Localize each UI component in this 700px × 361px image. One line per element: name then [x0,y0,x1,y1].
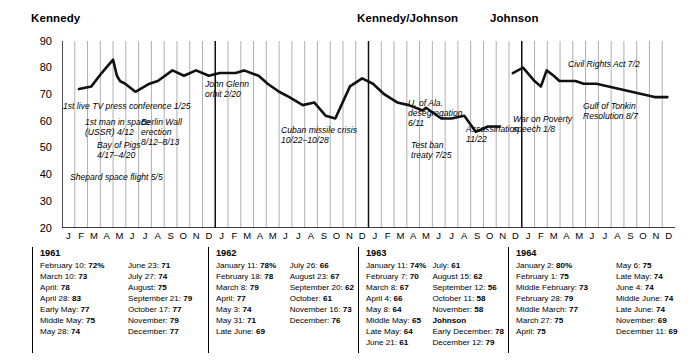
table-row: October 11: 58 [432,294,504,305]
row-label: May 31: [216,316,247,325]
row-label: January 11: [366,261,410,270]
row-value: 66 [393,294,402,303]
row-value: 56 [488,283,497,292]
row-label: April: [40,283,61,292]
row-value: 71 [161,261,170,270]
row-label: Early December: [432,327,495,336]
table-row: Late May: 74 [616,272,678,283]
row-value: 79 [486,338,495,347]
table-row: October 17: 77 [128,305,192,316]
row-value: 71 [247,316,256,325]
table-row: December 12: 79 [432,338,504,349]
row-value: 77 [569,305,578,314]
row-value: 74 [656,305,665,314]
row-label: May 28: [40,327,71,336]
row-label: May 6: [616,261,643,270]
row-value: 69 [256,327,265,336]
table-row: February 18: 78 [216,272,290,283]
row-value: 74 [654,272,663,281]
row-label: November: [616,316,658,325]
table-row: May 28: 74 [40,327,128,338]
row-value: 75 [537,327,546,336]
row-label: December: [128,327,170,336]
row-value: 58 [476,294,485,303]
table-row: December: 76 [290,316,354,327]
annotation-gulf-of-tonkin: Gulf of Tonkin Resolution 8/7 [583,101,638,121]
table-row: September 20: 62 [290,283,354,294]
y-tick-80: 80 [26,62,52,73]
row-value: 75 [560,272,569,281]
row-label: November 16: [290,305,343,314]
row-value: 78 [495,327,504,336]
row-label: September 20: [290,283,345,292]
row-value: 62 [345,283,354,292]
row-value: 74 [71,327,80,336]
table-row: Middle May: 75 [40,316,128,327]
table-row: September 21: 79 [128,294,192,305]
table-column: May 6: 75Late May: 74June 4: 74Middle Ju… [616,261,678,338]
table-row: Late June: 69 [216,327,290,338]
row-value: 79 [564,294,573,303]
annotation-civil-rights-act: Civil Rights Act 7/2 [568,59,640,69]
row-value: 65 [412,316,421,325]
row-value: 79 [183,294,192,303]
row-value: 66 [320,261,329,270]
row-label: April: [216,294,237,303]
table-row: November: 79 [128,316,192,327]
row-value: 77 [237,294,246,303]
table-row: March 8: 79 [216,283,290,294]
row-label: December 12: [432,338,485,347]
row-label: June 21: [366,338,399,347]
row-label: November: [128,316,170,325]
row-value: 73 [78,272,87,281]
table-row: July 27: 74 [128,272,192,283]
row-value: 62 [473,272,482,281]
table-row: Early December: 78 [432,327,504,338]
row-value: 72% [88,261,104,270]
row-label: March 10: [40,272,78,281]
table-row: January 11: 74% [366,261,432,272]
row-value: 77 [173,305,182,314]
row-value: 78 [264,272,273,281]
table-row: October: 61 [290,294,354,305]
y-tick-60: 60 [26,116,52,127]
row-label: March 8: [366,283,400,292]
row-value: 61 [399,338,408,347]
table-column: June 23: 71July 27: 74August: 75Septembe… [128,261,192,338]
table-row: January 2: 80% [516,261,616,272]
row-value: 74 [664,294,673,303]
table-row: May 31: 71 [216,316,290,327]
table-row: June 4: 74 [616,283,678,294]
table-year: 1963 [366,247,504,259]
table-row: Middle February: 73 [516,283,616,294]
row-value: 69 [658,316,667,325]
row-value: 79 [250,283,259,292]
y-tick-70: 70 [26,89,52,100]
row-label: October: [290,294,323,303]
row-label: Late June: [616,305,656,314]
section-title-kennedy: Kennedy [31,12,80,24]
table-row: Middle May: 65 [366,316,432,327]
table-row: November 16: 73 [290,305,354,316]
table-year: 1962 [216,247,354,259]
month-label: D [662,231,676,241]
row-value: 61 [451,261,460,270]
row-label: November: [432,305,474,314]
row-label: February 7: [366,272,410,281]
data-table-1962: 1962January 11: 78%February 18: 78March … [208,247,354,353]
table-subheading: Johnson [432,316,504,327]
y-tick-30: 30 [26,196,52,207]
row-label: August 23: [290,272,331,281]
row-value: 67 [400,283,409,292]
table-column: January 2: 80%February 1: 75Middle Febru… [516,261,616,338]
y-tick-50: 50 [26,142,52,153]
table-row: Early May: 77 [40,305,128,316]
row-label: August 15: [432,272,473,281]
annotation-assassination: Assassination 11/22 [466,124,519,144]
row-value: 58 [474,305,483,314]
row-label: April 4: [366,294,393,303]
row-label: April 28: [40,294,72,303]
row-label: Middle June: [616,294,664,303]
table-column: January 11: 78%February 18: 78March 8: 7… [216,261,290,338]
table-row: April: 77 [216,294,290,305]
